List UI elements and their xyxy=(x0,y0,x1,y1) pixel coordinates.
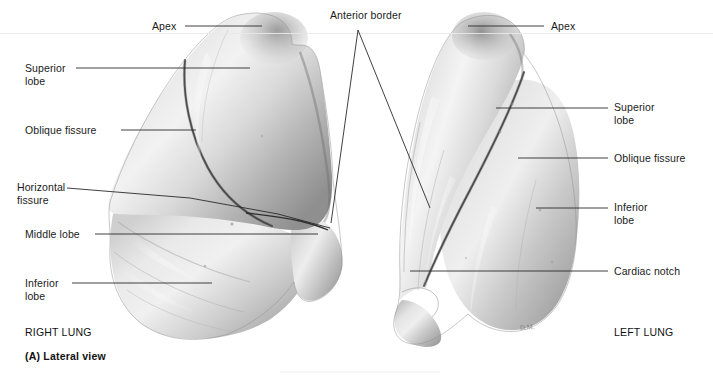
label-inferior-lobe-left-lung: Inferior lobe xyxy=(614,201,647,226)
label-superior-lobe-right-lung: Superior lobe xyxy=(25,62,66,87)
left-lung-speck-4 xyxy=(551,261,553,263)
label-cardiac-notch: Cardiac notch xyxy=(614,265,680,278)
label-apex-right-lung: Apex xyxy=(152,20,176,33)
left-lung-speck-1 xyxy=(511,103,514,106)
caption-right-lung: RIGHT LUNG xyxy=(25,326,92,339)
left-lung-speck-5 xyxy=(465,257,467,259)
right-lung-inferior-lobe xyxy=(110,210,308,339)
label-anterior-border: Anterior border xyxy=(330,9,402,22)
artist-signature-mark: D.M. xyxy=(520,323,536,332)
left-lung-specimen: D.M. xyxy=(394,12,580,347)
figure-caption-a: (A) Lateral view xyxy=(25,350,106,363)
label-inferior-lobe-right-lung: Inferior lobe xyxy=(25,277,58,302)
label-middle-lobe: Middle lobe xyxy=(25,228,80,241)
left-lung-speck-2 xyxy=(499,131,502,134)
right-lung-apex-shading xyxy=(240,12,308,64)
label-superior-lobe-left-lung: Superior lobe xyxy=(614,101,655,126)
label-horizontal-fissure: Horizontal fissure xyxy=(17,181,65,206)
right-lung-speck-1 xyxy=(230,222,233,225)
lung-specimen-artwork: D.M. xyxy=(0,0,713,377)
lung-anatomy-figure: D.M. xyxy=(0,0,713,377)
right-lung-speck-3 xyxy=(261,135,263,137)
label-oblique-fissure-right-lung: Oblique fissure xyxy=(25,124,97,137)
right-lung-specimen xyxy=(108,12,342,339)
right-lung-speck-2 xyxy=(204,265,207,268)
left-lung-speck-3 xyxy=(539,209,542,212)
caption-left-lung: LEFT LUNG xyxy=(614,326,673,339)
label-apex-left-lung: Apex xyxy=(551,20,575,33)
label-oblique-fissure-left-lung: Oblique fissure xyxy=(614,152,686,165)
